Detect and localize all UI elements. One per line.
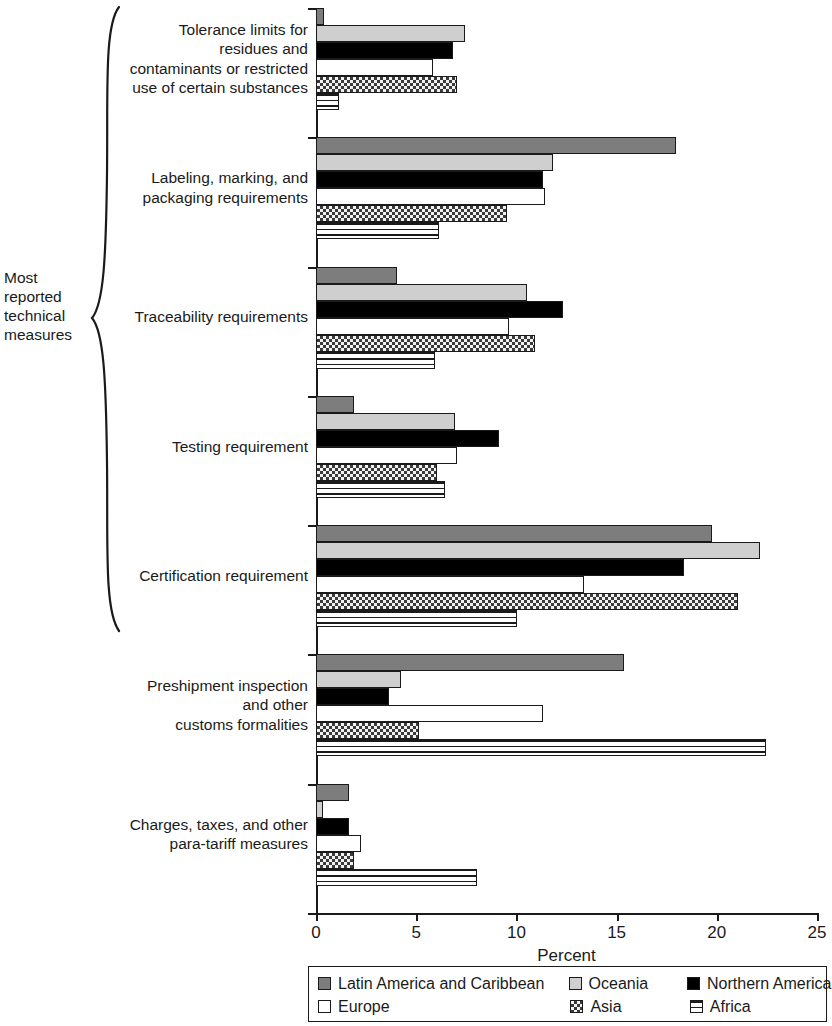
plot-area: Percent 0510152025 [316,8,817,913]
x-axis-tick [717,913,719,921]
legend: Latin America and Caribbean Oceania Nort… [308,966,827,1022]
y-axis-tick [308,267,316,269]
x-axis-tick-label: 20 [707,923,726,943]
y-axis-tick [308,396,316,398]
x-axis-tick [817,913,819,921]
bar-latin-america-and-caribbean-group-1 [317,8,324,25]
legend-label-europe: Europe [338,999,390,1015]
bar-northern-america-group-5 [317,559,684,576]
bar-asia-group-2 [317,205,507,222]
category-label-2: Labeling, marking, and packaging require… [102,168,308,207]
bar-oceania-group-4 [317,413,455,430]
bar-latin-america-and-caribbean-group-5 [317,525,712,542]
bar-europe-group-2 [317,188,545,205]
x-axis-title: Percent [316,946,817,966]
category-label-1: Tolerance limits for residues and contam… [102,20,308,98]
bar-oceania-group-5 [317,542,760,559]
bar-latin-america-and-caribbean-group-6 [317,654,624,671]
category-label-4: Testing requirement [102,437,308,457]
x-axis-tick [316,913,318,921]
legend-swatch-icon-asia [570,1000,583,1013]
bar-latin-america-and-caribbean-group-7 [317,784,349,801]
bar-northern-america-group-6 [317,688,389,705]
bar-northern-america-group-3 [317,301,563,318]
legend-item-africa: Africa [690,999,817,1015]
legend-swatch-icon-northern-america [687,977,700,990]
bar-oceania-group-2 [317,154,553,171]
legend-swatch-icon-africa [690,1000,703,1013]
bar-northern-america-group-7 [317,818,349,835]
y-axis-tick [308,913,316,915]
category-label-7: Charges, taxes, and other para-tariff me… [102,815,308,854]
legend-item-europe: Europe [318,999,570,1015]
category-label-3: Traceability requirements [102,307,308,327]
y-axis-tick [308,137,316,139]
bar-europe-group-3 [317,318,509,335]
bar-europe-group-7 [317,835,361,852]
legend-label-latin-america: Latin America and Caribbean [338,976,544,992]
bar-oceania-group-1 [317,25,465,42]
legend-swatch-icon-latin-america [318,977,331,990]
x-axis-tick-label: 10 [507,923,526,943]
legend-item-northern-america: Northern America [687,976,817,992]
group-caption: Most reported technical measures [4,268,82,344]
bar-africa-group-1 [317,93,339,110]
bar-asia-group-5 [317,593,738,610]
x-axis-tick-label: 15 [607,923,626,943]
x-axis-tick [516,913,518,921]
y-axis-tick [308,654,316,656]
y-axis-tick [308,525,316,527]
bar-northern-america-group-2 [317,171,543,188]
legend-label-northern-america: Northern America [707,976,832,992]
bar-europe-group-5 [317,576,584,593]
bar-asia-group-7 [317,852,354,869]
bar-africa-group-6 [317,739,766,756]
category-label-5: Certification requirement [102,566,308,586]
legend-swatch-icon-europe [318,1000,331,1013]
bar-latin-america-and-caribbean-group-4 [317,396,354,413]
bar-africa-group-4 [317,481,445,498]
x-axis-line [316,913,818,915]
bar-asia-group-4 [317,464,437,481]
bar-africa-group-5 [317,610,517,627]
category-label-6: Preshipment inspection and other customs… [102,676,308,735]
y-axis-tick [308,784,316,786]
x-axis-tick-label: 0 [311,923,320,943]
bar-latin-america-and-caribbean-group-2 [317,137,676,154]
bar-africa-group-3 [317,352,435,369]
legend-item-asia: Asia [570,999,689,1015]
bar-northern-america-group-1 [317,42,453,59]
legend-label-africa: Africa [710,999,751,1015]
x-axis-tick-label: 5 [411,923,420,943]
legend-item-latin-america: Latin America and Caribbean [318,976,569,992]
legend-label-oceania: Oceania [589,976,649,992]
x-axis-tick [617,913,619,921]
bar-asia-group-6 [317,722,419,739]
bar-northern-america-group-4 [317,430,499,447]
legend-swatch-icon-oceania [569,977,582,990]
bar-asia-group-1 [317,76,457,93]
bar-latin-america-and-caribbean-group-3 [317,267,397,284]
legend-item-oceania: Oceania [569,976,687,992]
category-label-column: Tolerance limits for residues and contam… [96,0,308,918]
legend-row-1: Latin America and Caribbean Oceania Nort… [318,972,817,995]
bar-europe-group-4 [317,447,457,464]
x-axis-tick-label: 25 [808,923,827,943]
bar-africa-group-7 [317,869,477,886]
x-axis-tick [416,913,418,921]
bar-europe-group-6 [317,705,543,722]
legend-label-asia: Asia [590,999,621,1015]
bar-oceania-group-7 [317,801,323,818]
legend-row-2: Europe Asia Africa [318,995,817,1018]
bar-oceania-group-3 [317,284,527,301]
bar-europe-group-1 [317,59,433,76]
bar-africa-group-2 [317,222,439,239]
y-axis-tick [308,8,316,10]
bar-asia-group-3 [317,335,535,352]
bar-oceania-group-6 [317,671,401,688]
